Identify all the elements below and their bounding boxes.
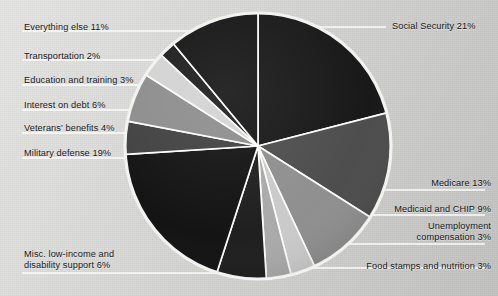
slice-label-food-stamps-nutrition: Food stamps and nutrition 3%: [366, 261, 491, 272]
slice-label-veterans-benefits: Veterans' benefits 4%: [24, 123, 115, 134]
slice-label-education-and-training: Education and training 3%: [24, 75, 134, 86]
slice-label-unemployment-compensation: Unemployment compensation 3%: [417, 221, 491, 244]
slice-label-military-defense: Military defense 19%: [24, 148, 111, 159]
slice-label-everything-else: Everything else 11%: [24, 22, 109, 33]
pie-chart-figure: Social Security 21%Medicare 13%Medicaid …: [0, 0, 498, 296]
slice-label-medicare: Medicare 13%: [431, 178, 491, 189]
slice-label-transportation: Transportation 2%: [24, 51, 100, 62]
slice-label-social-security: Social Security 21%: [392, 21, 475, 32]
slice-label-medicaid-chip: Medicaid and CHIP 9%: [394, 204, 491, 215]
slice-label-misc-low-income: Misc. low-income and disability support …: [24, 249, 114, 272]
slice-label-interest-on-debt: Interest on debt 6%: [24, 100, 105, 111]
